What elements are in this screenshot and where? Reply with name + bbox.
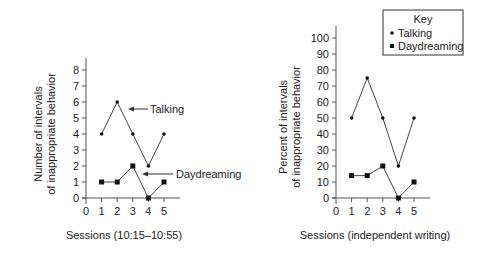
left-y-tick-label: 3 — [73, 144, 79, 156]
left-y-tick-label: 7 — [73, 80, 79, 92]
right-x-tick-label: 3 — [380, 205, 386, 217]
left-talking-point — [131, 132, 135, 136]
left-x-tick-label: 4 — [145, 205, 151, 217]
right-y-tick-label: 0 — [323, 192, 329, 204]
left-y-tick-label: 2 — [73, 160, 79, 172]
left-talking-point — [162, 132, 166, 136]
left-axes: 012345678012345 — [73, 58, 180, 217]
right-y-tick-label: 60 — [317, 96, 329, 108]
legend-daydreaming-label: Daydreaming — [398, 40, 463, 52]
right-y-tick-label: 30 — [317, 144, 329, 156]
left-x-tick-label: 5 — [161, 205, 167, 217]
left-daydreaming-point — [146, 196, 151, 201]
talking-annotation: Talking — [150, 103, 184, 115]
left-daydreaming-point — [130, 164, 135, 169]
left-talking-point — [115, 100, 119, 104]
legend: Key Talking Daydreaming — [383, 10, 463, 55]
right-talking-point — [397, 164, 401, 168]
right-y-tick-label: 20 — [317, 160, 329, 172]
left-y-axis-label-line2: of inappropriate behavior — [45, 73, 57, 195]
right-x-tick-label: 5 — [411, 205, 417, 217]
daydreaming-annotation: Daydreaming — [176, 168, 241, 180]
right-x-tick-label: 2 — [364, 205, 370, 217]
right-series — [349, 76, 416, 200]
legend-talking-label: Talking — [398, 27, 432, 39]
left-talking-point — [147, 164, 151, 168]
left-daydreaming-point — [162, 180, 167, 185]
left-daydreaming-point — [115, 180, 120, 185]
right-talking-point — [350, 116, 354, 120]
right-y-tick-label: 10 — [317, 176, 329, 188]
left-y-tick-label: 0 — [73, 192, 79, 204]
right-talking-point — [381, 116, 385, 120]
left-chart: Number of intervals of inappropriate beh… — [32, 58, 241, 241]
left-y-tick-label: 1 — [73, 176, 79, 188]
left-x-axis-label: Sessions (10:15–10:55) — [66, 229, 182, 241]
left-y-tick-label: 4 — [73, 128, 79, 140]
right-x-tick-label: 1 — [349, 205, 355, 217]
right-daydreaming-point — [380, 164, 385, 169]
left-x-tick-label: 2 — [114, 205, 120, 217]
right-x-tick-label: 4 — [395, 205, 401, 217]
right-y-tick-label: 90 — [317, 48, 329, 60]
left-daydreaming-line — [102, 166, 164, 198]
right-daydreaming-point — [365, 173, 370, 178]
left-x-tick-label: 1 — [99, 205, 105, 217]
right-y-axis-label-line1: Percent of intervals — [277, 79, 289, 174]
right-x-axis-label: Sessions (independent writing) — [300, 229, 450, 241]
left-talking-point — [100, 132, 104, 136]
legend-daydreaming-marker — [390, 44, 394, 48]
right-daydreaming-point — [412, 180, 417, 185]
legend-talking-marker — [390, 31, 394, 35]
left-y-tick-label: 8 — [73, 64, 79, 76]
legend-title: Key — [414, 13, 433, 25]
right-daydreaming-line — [352, 166, 414, 198]
right-x-tick-label: 0 — [333, 205, 339, 217]
left-x-tick-label: 3 — [130, 205, 136, 217]
left-series — [99, 100, 166, 200]
figure-canvas: Number of intervals of inappropriate beh… — [0, 0, 489, 262]
left-y-tick-label: 5 — [73, 112, 79, 124]
right-y-tick-label: 80 — [317, 64, 329, 76]
right-chart: Percent of intervals of inappropriate be… — [277, 10, 463, 241]
right-y-tick-label: 50 — [317, 112, 329, 124]
right-daydreaming-point — [349, 173, 354, 178]
right-talking-point — [412, 116, 416, 120]
left-y-tick-label: 6 — [73, 96, 79, 108]
right-talking-line — [352, 78, 414, 166]
right-y-axis-label-line2: of inappropriate behavior — [290, 66, 302, 188]
left-daydreaming-point — [99, 180, 104, 185]
right-y-tick-label: 40 — [317, 128, 329, 140]
right-talking-point — [365, 76, 369, 80]
daydreaming-arrowhead — [142, 172, 148, 177]
talking-arrowhead — [128, 107, 134, 112]
left-y-axis-label-line1: Number of intervals — [32, 86, 44, 182]
right-y-tick-label: 70 — [317, 80, 329, 92]
right-y-tick-label: 100 — [311, 32, 329, 44]
left-x-tick-label: 0 — [83, 205, 89, 217]
right-daydreaming-point — [396, 196, 401, 201]
